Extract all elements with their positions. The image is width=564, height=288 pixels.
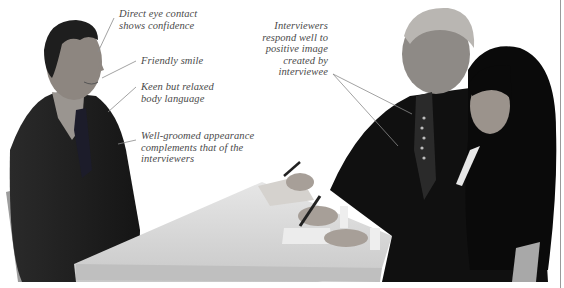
annotation-line: Friendly smile (141, 55, 203, 67)
annotation-line: Well-groomed appearance (141, 130, 254, 142)
annotation-smile: Friendly smile (141, 55, 203, 67)
annotation-line: Interviewers (262, 20, 328, 32)
annotation-body-language: Keen but relaxed body language (141, 81, 214, 104)
annotation-interviewers: Interviewers respond well to positive im… (262, 20, 328, 78)
annotation-eye-contact: Direct eye contact shows confidence (119, 8, 197, 31)
annotation-line: created by (262, 55, 328, 67)
candidate-figure (10, 20, 140, 282)
right-border (560, 0, 561, 288)
annotation-appearance: Well-groomed appearance complements that… (141, 130, 254, 165)
interviewer-chair (512, 242, 540, 282)
annotation-line: complements that of the (141, 142, 254, 154)
annotation-line: shows confidence (119, 20, 197, 32)
annotation-line: Direct eye contact (119, 8, 197, 20)
annotation-line: respond well to (262, 32, 328, 44)
annotation-line: body language (141, 93, 214, 105)
annotation-line: interviewee (262, 66, 328, 78)
annotation-line: positive image (262, 43, 328, 55)
interview-illustration: Direct eye contact shows confidence Frie… (0, 0, 564, 288)
annotation-line: Keen but relaxed (141, 81, 214, 93)
annotation-line: interviewers (141, 153, 254, 165)
